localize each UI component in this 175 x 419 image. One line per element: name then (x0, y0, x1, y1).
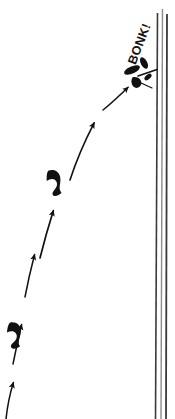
flight-path (6, 87, 128, 419)
motion-arrow-5 (70, 123, 94, 180)
pane-line-3 (166, 14, 167, 419)
bird-silhouette-1 (4, 320, 26, 350)
pane-line-1 (156, 13, 158, 419)
bird-silhouette-2 (42, 167, 67, 197)
motion-arrow-1 (6, 383, 13, 419)
bonk-text-group: BONK! (125, 21, 153, 66)
glass-pane (156, 9, 168, 419)
motion-arrow-4 (40, 211, 53, 259)
impact-label: BONK! (125, 21, 153, 66)
splash-line-2 (141, 83, 152, 88)
motion-arrow-3 (25, 255, 35, 298)
illustration-canvas: BONK! (0, 0, 175, 419)
pane-line-2 (161, 9, 163, 419)
bird-window-illustration: BONK! (0, 0, 175, 419)
motion-arrow-6 (103, 87, 128, 110)
